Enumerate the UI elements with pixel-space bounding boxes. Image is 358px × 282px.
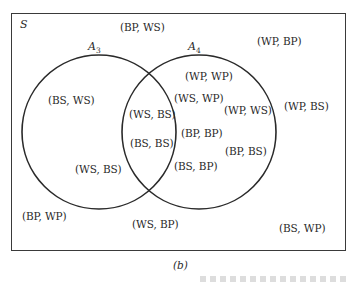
outcome-label: (WS, BS) bbox=[129, 108, 176, 120]
set-a3-label: A3 bbox=[88, 40, 101, 55]
set-a3-circle bbox=[22, 55, 176, 209]
outcome-label: (BS, BP) bbox=[174, 160, 217, 172]
figure-caption: (b) bbox=[173, 259, 188, 271]
outcome-label: (WP, WP) bbox=[185, 70, 233, 82]
venn-circles bbox=[0, 0, 358, 282]
outcome-label: (WP, WS) bbox=[224, 104, 272, 116]
set-a4-label: A4 bbox=[188, 40, 201, 55]
universe-label: S bbox=[20, 18, 28, 31]
outcome-label: (WS, WP) bbox=[174, 92, 224, 104]
outcome-label: (BP, BP) bbox=[181, 127, 223, 139]
outcome-label: (BS, WS) bbox=[48, 94, 95, 106]
outcome-label: (BP, WP) bbox=[22, 210, 67, 222]
outcome-label: (BS, BS) bbox=[130, 137, 174, 149]
outcome-label: (WP, BP) bbox=[257, 35, 302, 47]
outcome-label: (BP, BS) bbox=[225, 145, 267, 157]
outcome-label: (WP, BS) bbox=[284, 100, 329, 112]
outcome-label: (BS, WP) bbox=[279, 222, 325, 234]
outcome-label: (WS, BP) bbox=[132, 218, 178, 230]
outcome-label: (WS, BS) bbox=[75, 163, 122, 175]
outcome-label: (BP, WS) bbox=[120, 21, 165, 33]
bleed-through-text bbox=[200, 276, 350, 282]
